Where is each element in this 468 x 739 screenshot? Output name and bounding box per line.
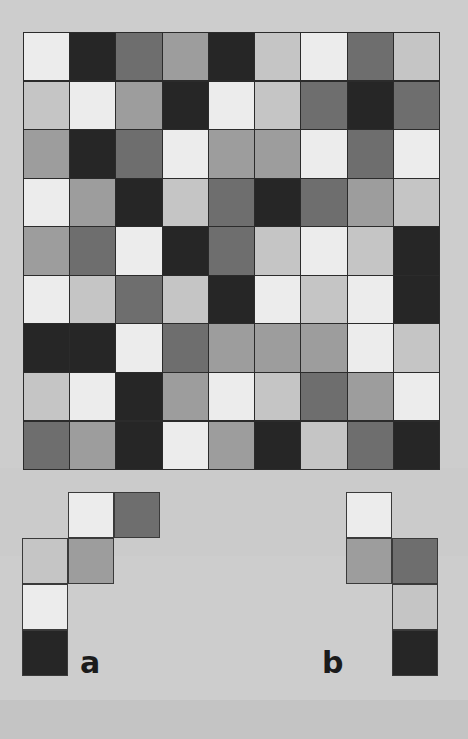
- grid-cell[interactable]: [255, 33, 300, 80]
- piece-cell[interactable]: [68, 538, 114, 584]
- grid-cell[interactable]: [209, 276, 254, 323]
- grid-cell[interactable]: [209, 130, 254, 177]
- grid-cell[interactable]: [255, 422, 300, 469]
- grid-cell[interactable]: [163, 33, 208, 80]
- grid-cell[interactable]: [348, 324, 393, 371]
- grid-cell[interactable]: [70, 179, 115, 226]
- grid-cell[interactable]: [116, 82, 161, 129]
- piece-cell[interactable]: [346, 492, 392, 538]
- grid-cell[interactable]: [301, 227, 346, 274]
- grid-cell[interactable]: [394, 373, 439, 420]
- grid-cell[interactable]: [394, 422, 439, 469]
- piece-b-label: b: [322, 648, 343, 678]
- grid-cell[interactable]: [163, 276, 208, 323]
- grid-cell[interactable]: [209, 33, 254, 80]
- grid-cell[interactable]: [255, 227, 300, 274]
- main-tile-grid[interactable]: [23, 32, 440, 470]
- grid-cell[interactable]: [394, 179, 439, 226]
- grid-cell[interactable]: [163, 82, 208, 129]
- grid-cell[interactable]: [163, 130, 208, 177]
- grid-cell[interactable]: [394, 227, 439, 274]
- grid-cell[interactable]: [394, 82, 439, 129]
- grid-cell[interactable]: [163, 373, 208, 420]
- piece-cell[interactable]: [68, 492, 114, 538]
- puzzle-piece-b[interactable]: [346, 492, 438, 676]
- grid-cell[interactable]: [116, 276, 161, 323]
- piece-cell[interactable]: [392, 538, 438, 584]
- grid-cell[interactable]: [348, 82, 393, 129]
- piece-cell-empty: [392, 492, 438, 538]
- grid-cell[interactable]: [301, 422, 346, 469]
- piece-cell[interactable]: [392, 630, 438, 676]
- grid-cell[interactable]: [348, 130, 393, 177]
- grid-cell[interactable]: [24, 324, 69, 371]
- grid-cell[interactable]: [255, 276, 300, 323]
- grid-cell[interactable]: [24, 130, 69, 177]
- piece-cell-empty: [114, 538, 160, 584]
- grid-cell[interactable]: [163, 422, 208, 469]
- grid-cell[interactable]: [301, 179, 346, 226]
- grid-cell[interactable]: [209, 373, 254, 420]
- grid-cell[interactable]: [209, 227, 254, 274]
- grid-cell[interactable]: [394, 276, 439, 323]
- grid-cell[interactable]: [163, 324, 208, 371]
- grid-cell[interactable]: [70, 227, 115, 274]
- grid-cell[interactable]: [116, 130, 161, 177]
- grid-cell[interactable]: [301, 373, 346, 420]
- grid-cell[interactable]: [24, 179, 69, 226]
- grid-cell[interactable]: [24, 82, 69, 129]
- grid-cell[interactable]: [255, 82, 300, 129]
- grid-cell[interactable]: [209, 422, 254, 469]
- figure-canvas: a b: [0, 0, 468, 739]
- piece-cell-empty: [114, 584, 160, 630]
- grid-cell[interactable]: [24, 227, 69, 274]
- grid-cell[interactable]: [24, 33, 69, 80]
- grid-cell[interactable]: [348, 227, 393, 274]
- piece-cell[interactable]: [114, 492, 160, 538]
- grid-cell[interactable]: [116, 373, 161, 420]
- grid-cell[interactable]: [70, 324, 115, 371]
- grid-cell[interactable]: [24, 422, 69, 469]
- grid-cell[interactable]: [348, 373, 393, 420]
- grid-cell[interactable]: [394, 130, 439, 177]
- grid-cell[interactable]: [348, 179, 393, 226]
- grid-cell[interactable]: [116, 227, 161, 274]
- grid-cell[interactable]: [255, 179, 300, 226]
- grid-cell[interactable]: [394, 33, 439, 80]
- grid-cell[interactable]: [209, 324, 254, 371]
- grid-cell[interactable]: [209, 82, 254, 129]
- grid-cell[interactable]: [163, 179, 208, 226]
- grid-cell[interactable]: [301, 130, 346, 177]
- grid-cell[interactable]: [255, 373, 300, 420]
- grid-cell[interactable]: [348, 422, 393, 469]
- piece-cell[interactable]: [392, 584, 438, 630]
- grid-cell[interactable]: [70, 373, 115, 420]
- grid-cell[interactable]: [24, 276, 69, 323]
- grid-cell[interactable]: [301, 276, 346, 323]
- grid-cell[interactable]: [70, 33, 115, 80]
- grid-cell[interactable]: [301, 324, 346, 371]
- grid-cell[interactable]: [348, 276, 393, 323]
- grid-cell[interactable]: [24, 373, 69, 420]
- grid-cell[interactable]: [301, 82, 346, 129]
- piece-cell[interactable]: [22, 538, 68, 584]
- grid-cell[interactable]: [116, 33, 161, 80]
- piece-cell[interactable]: [22, 630, 68, 676]
- piece-cell[interactable]: [22, 584, 68, 630]
- grid-cell[interactable]: [394, 324, 439, 371]
- grid-cell[interactable]: [255, 130, 300, 177]
- grid-cell[interactable]: [301, 33, 346, 80]
- grid-cell[interactable]: [209, 179, 254, 226]
- grid-cell[interactable]: [70, 422, 115, 469]
- piece-cell-empty: [22, 492, 68, 538]
- grid-cell[interactable]: [116, 324, 161, 371]
- grid-cell[interactable]: [116, 422, 161, 469]
- grid-cell[interactable]: [70, 82, 115, 129]
- grid-cell[interactable]: [348, 33, 393, 80]
- grid-cell[interactable]: [116, 179, 161, 226]
- grid-cell[interactable]: [70, 130, 115, 177]
- piece-cell[interactable]: [346, 538, 392, 584]
- grid-cell[interactable]: [163, 227, 208, 274]
- grid-cell[interactable]: [70, 276, 115, 323]
- grid-cell[interactable]: [255, 324, 300, 371]
